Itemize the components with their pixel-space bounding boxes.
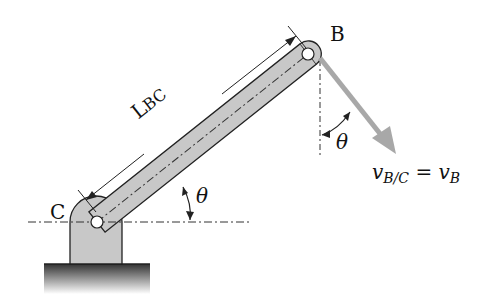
label-velocity-equation: vB/C = vB	[372, 162, 460, 185]
label-point-b: B	[330, 24, 345, 44]
label-theta-velocity: θ	[336, 132, 348, 152]
pin-b-icon	[302, 48, 314, 60]
label-point-c: C	[50, 202, 65, 222]
ground-hatch	[44, 264, 150, 294]
velocity-arrow	[320, 58, 385, 140]
link-diagram-graphic	[0, 0, 487, 298]
label-theta-link: θ	[196, 186, 208, 206]
pin-c-icon	[91, 216, 103, 228]
diagram-canvas: B C LBC θ θ vB/C = vB	[0, 0, 487, 298]
